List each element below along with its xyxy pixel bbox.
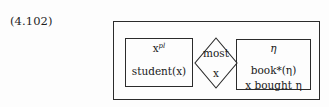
scope-condition-bought-relation: x bought η xyxy=(245,79,301,92)
scope-condition-book-predicate: book*(η) xyxy=(251,64,296,77)
restrictor-universe-discourse-referent: xpl xyxy=(153,43,166,54)
quantifier-label-group: most x xyxy=(194,37,238,89)
equation-number: (4.102) xyxy=(10,14,53,28)
restrictor-condition-label: student(x) xyxy=(132,66,186,77)
quantifier-determiner-label: most xyxy=(203,48,229,59)
scope-universe-discourse-referent: η xyxy=(270,43,276,54)
quantifier-variable-label: x xyxy=(213,68,219,79)
restrictor-plural-superscript-label: pl xyxy=(159,42,166,50)
restrictor-drs-box: xpl student(x) xyxy=(125,38,193,87)
drs-duplex-figure: (4.102) xpl student(x) most x η book*(η)… xyxy=(0,0,329,107)
quantifier-diamond-shape: most x xyxy=(194,37,238,89)
scope-drs-box: η book*(η) x bought η xyxy=(236,39,311,90)
